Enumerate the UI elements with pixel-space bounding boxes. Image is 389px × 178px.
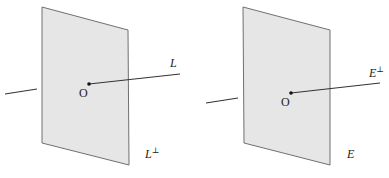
perp-superscript: ⊥ <box>376 65 384 74</box>
origin-point <box>87 82 91 86</box>
perp-superscript: ⊥ <box>152 146 160 155</box>
left-panel: O L L⊥ <box>5 7 180 165</box>
orthogonal-complement-diagram: O L L⊥ O E⊥ E <box>0 0 389 178</box>
plane-E <box>243 7 330 165</box>
line-label-E-perp: E⊥ <box>368 65 384 80</box>
line-E-perp-back-segment <box>206 98 238 103</box>
origin-label: O <box>79 86 88 100</box>
right-panel: O E⊥ E <box>206 7 384 165</box>
plane-label-L-perp: L⊥ <box>144 146 159 161</box>
line-label-L: L <box>169 56 177 70</box>
origin-point <box>289 91 293 95</box>
plane-label-E: E <box>346 147 355 161</box>
origin-label: O <box>281 95 290 109</box>
line-L-back-segment <box>5 89 37 94</box>
